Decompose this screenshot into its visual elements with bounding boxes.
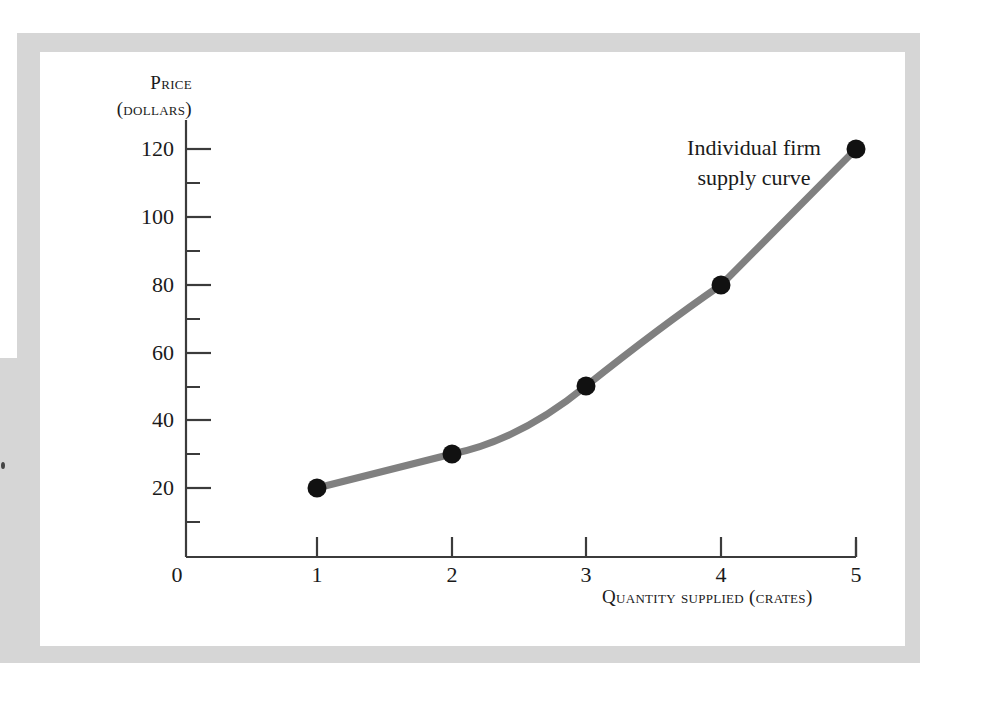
y-tick-label-80: 80 [110,272,174,298]
data-point-markers [308,140,866,498]
x-axis-title: Quantity supplied (crates) [602,586,813,608]
curve-annotation-line1: Individual firm [651,133,857,163]
y-tick-label-120: 120 [110,136,174,162]
curve-annotation: Individual firm supply curve [651,133,857,193]
data-point [443,445,462,464]
y-axis-title: Price (dollars) [84,70,192,122]
x-tick-label-2: 2 [432,562,472,588]
curve-annotation-line2: supply curve [651,163,857,193]
data-point [577,377,596,396]
x-tick-label-0: 0 [157,562,197,588]
data-point [712,276,731,295]
figure-root: Price (dollars) 120 100 80 60 40 20 0 1 … [0,0,982,703]
y-axis-title-line2: (dollars) [84,96,192,122]
x-tick-label-1: 1 [297,562,337,588]
x-tick-label-3: 3 [566,562,606,588]
supply-curve-line [317,149,856,488]
y-axis-title-line1: Price [150,72,192,93]
y-tick-label-40: 40 [110,407,174,433]
y-tick-label-100: 100 [110,204,174,230]
y-tick-label-60: 60 [110,340,174,366]
data-point [308,479,327,498]
x-tick-label-4: 4 [701,562,741,588]
y-tick-label-20: 20 [110,475,174,501]
x-tick-label-5: 5 [836,562,876,588]
x-axis-ticks [317,537,856,557]
